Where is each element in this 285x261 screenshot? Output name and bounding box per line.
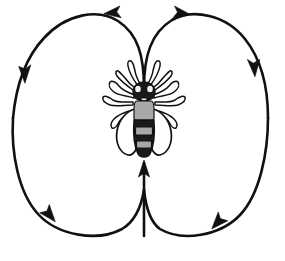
airflow-diagram [0, 0, 285, 261]
eye-right [147, 85, 154, 93]
eye-left [135, 85, 142, 93]
thorax [134, 101, 154, 122]
antenna-left [128, 61, 141, 86]
leg-mid-right [155, 96, 185, 106]
abdomen-band-upper [136, 127, 153, 135]
abdomen [134, 120, 155, 157]
figure-root: Insect Airflow Circulation Diagram Bilat… [0, 0, 285, 261]
top-right-arrow [172, 5, 191, 19]
abdomen-band-lower [137, 141, 152, 148]
leg-front-right [153, 81, 179, 98]
insect-head [133, 82, 155, 101]
insect-thorax [134, 101, 154, 122]
antenna-right [147, 61, 160, 86]
insect-abdomen [134, 120, 155, 157]
leg-mid-left [103, 96, 133, 106]
leg-front-left [109, 81, 135, 98]
central-updraft [138, 160, 149, 236]
